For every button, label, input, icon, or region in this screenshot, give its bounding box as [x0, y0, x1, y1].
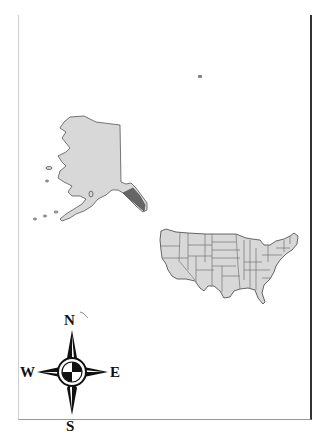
compass-south-label: S [66, 418, 74, 435]
island-chain-icon [80, 312, 88, 318]
compass-north-label: N [64, 312, 75, 329]
map-canvas [0, 0, 327, 435]
compass-rose-icon [37, 330, 108, 415]
alaska-region [34, 116, 148, 221]
compass-east-label: E [110, 364, 120, 381]
compass-west-label: W [20, 364, 35, 381]
hawaii-region [198, 75, 202, 78]
contiguous-us-region [160, 229, 298, 304]
